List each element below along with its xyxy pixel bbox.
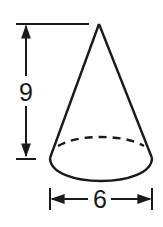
cone-base-front [50, 158, 152, 181]
diameter-label: 6 [93, 185, 107, 213]
cone-shape [50, 24, 152, 181]
cone-right-side [99, 24, 152, 158]
height-label: 9 [19, 78, 33, 106]
cone-diagram: 9 6 [0, 0, 163, 227]
cone-base-back-hidden [58, 137, 144, 146]
